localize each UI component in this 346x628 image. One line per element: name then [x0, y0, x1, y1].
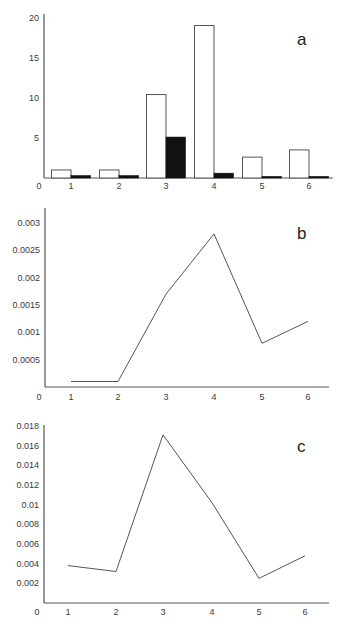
x-tick-label: 2 — [115, 392, 120, 402]
y-tick-label: 10 — [29, 93, 39, 103]
y-tick-label: 0.0015 — [12, 300, 40, 310]
x-tick-label: 2 — [113, 607, 118, 617]
x-tick-label: 3 — [160, 607, 165, 617]
x-tick-label: 5 — [259, 392, 264, 402]
x-tick-label: 6 — [306, 181, 311, 191]
y-tick-label: 0.014 — [16, 460, 39, 470]
x-tick-label: 4 — [211, 181, 216, 191]
y-tick-label: 0.01 — [21, 500, 39, 510]
bar-white — [290, 150, 310, 178]
panel-letter-label: c — [297, 437, 306, 456]
y-tick-label: 0.016 — [16, 441, 39, 451]
panel-c-line-chart: 0.0020.0040.0060.0080.010.0120.0140.0160… — [16, 421, 329, 617]
y-tick-label: 0.008 — [16, 519, 39, 529]
panel-a-bar-chart: 51015200123456a — [29, 13, 333, 192]
bar-black — [71, 176, 91, 178]
origin-label: 0 — [34, 607, 39, 617]
y-tick-label: 0.003 — [17, 218, 40, 228]
x-tick-label: 3 — [163, 392, 168, 402]
x-tick-label: 1 — [68, 181, 73, 191]
panel-letter-label: a — [297, 30, 307, 49]
x-tick-label: 6 — [302, 607, 307, 617]
data-line — [71, 234, 308, 382]
origin-label: 0 — [36, 392, 41, 402]
y-tick-label: 0.004 — [16, 559, 39, 569]
x-tick-label: 6 — [305, 392, 310, 402]
y-tick-label: 0.006 — [16, 539, 39, 549]
y-tick-label: 0.012 — [16, 480, 39, 490]
bar-white — [243, 157, 263, 178]
y-tick-label: 0.001 — [17, 327, 40, 337]
y-tick-label: 15 — [29, 53, 39, 63]
y-tick-label: 20 — [29, 13, 39, 23]
x-tick-label: 1 — [68, 392, 73, 402]
panel-letter-label: b — [297, 224, 306, 243]
x-tick-label: 2 — [116, 181, 121, 191]
data-line — [68, 435, 305, 579]
y-tick-label: 0.002 — [16, 578, 39, 588]
y-tick-label: 0.002 — [17, 273, 40, 283]
bar-black — [309, 176, 329, 178]
x-tick-label: 5 — [259, 181, 264, 191]
x-tick-label: 3 — [163, 181, 168, 191]
bar-white — [100, 170, 120, 178]
figure-panels: 51015200123456a 0.00050.0010.00150.0020.… — [0, 0, 346, 628]
y-tick-label: 0.0005 — [12, 355, 40, 365]
bar-black — [119, 176, 139, 178]
bar-black — [214, 173, 234, 178]
x-tick-label: 4 — [211, 392, 216, 402]
bar-black — [262, 176, 282, 178]
x-tick-label: 1 — [65, 607, 70, 617]
x-tick-label: 5 — [256, 607, 261, 617]
bar-white — [52, 170, 72, 178]
y-tick-label: 5 — [34, 133, 39, 143]
bar-black — [166, 137, 186, 178]
bar-white — [195, 26, 215, 178]
bar-white — [147, 95, 167, 178]
y-tick-label: 0.0025 — [12, 245, 40, 255]
x-tick-label: 4 — [209, 607, 214, 617]
y-tick-label: 0.018 — [16, 421, 39, 431]
panel-b-line-chart: 0.00050.0010.00150.0020.00250.0030123456… — [12, 208, 329, 402]
origin-label: 0 — [36, 181, 41, 191]
